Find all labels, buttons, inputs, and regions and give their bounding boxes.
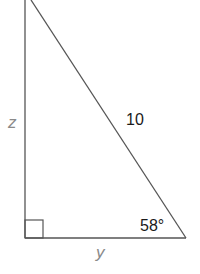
label-hypotenuse: 10 [126,112,144,128]
label-angle: 58° [140,218,164,234]
label-y: y [96,244,105,261]
hypotenuse-line [31,0,186,238]
right-angle-marker [25,220,43,238]
triangle-figure [0,0,200,274]
label-z: z [8,114,17,131]
